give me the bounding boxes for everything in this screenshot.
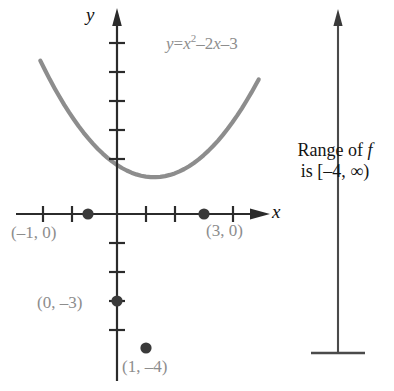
x-axis-label: x — [272, 202, 280, 221]
range-annotation-function-name: f — [367, 140, 372, 160]
range-annotation: Range of f is [–4, ∞) — [276, 140, 394, 182]
range-annotation-line2: is [–4, ∞) — [276, 161, 394, 182]
point-x-intercept-right — [198, 208, 209, 219]
point-x-intercept-left — [82, 208, 93, 219]
parabola-curve — [40, 61, 258, 178]
equation-term2-var: x — [213, 34, 221, 53]
equation-term2-coefficient: 2 — [205, 34, 214, 53]
point-y-intercept — [111, 295, 122, 306]
equation-var: x — [183, 34, 191, 53]
range-annotation-prefix: Range of — [298, 140, 368, 160]
range-bar-arrowhead — [333, 9, 342, 26]
equation-term3-operator: – — [221, 34, 230, 53]
parabola-figure: y x y=x2–2x–3 (–1, 0) (3, 0) (0, –3) (1,… — [0, 0, 394, 391]
equation-equals: = — [174, 34, 184, 53]
plot-canvas — [0, 0, 394, 391]
range-annotation-line1: Range of f — [276, 140, 394, 161]
equation-term3-constant: 3 — [229, 34, 238, 53]
equation-lhs: y — [166, 34, 174, 53]
y-axis-arrowhead — [112, 8, 122, 26]
x-axis-arrowhead — [250, 208, 270, 219]
point-label-x-intercept-right: (3, 0) — [206, 222, 243, 239]
equation-term2-operator: – — [196, 34, 205, 53]
point-vertex — [140, 342, 151, 353]
point-label-vertex: (1, –4) — [122, 358, 167, 375]
y-axis-label: y — [86, 5, 94, 24]
equation-label: y=x2–2x–3 — [166, 33, 238, 52]
point-label-y-intercept: (0, –3) — [37, 294, 82, 311]
point-label-x-intercept-left: (–1, 0) — [11, 224, 56, 241]
